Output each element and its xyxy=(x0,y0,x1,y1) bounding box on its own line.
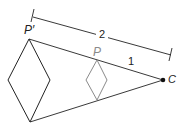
image-rhombus xyxy=(8,39,50,122)
label-p-prime: P′ xyxy=(24,23,34,37)
center-point-icon xyxy=(161,78,166,83)
label-scale-2: 2 xyxy=(99,28,105,40)
ray-lower xyxy=(30,80,163,122)
dilation-diagram: P′ P C 2 1 xyxy=(0,0,181,130)
label-scale-1: 1 xyxy=(128,55,134,67)
diagram-svg xyxy=(0,0,181,130)
label-c: C xyxy=(168,73,176,85)
preimage-rhombus xyxy=(86,60,107,100)
label-p: P xyxy=(93,45,101,59)
dimension-tick-left xyxy=(31,9,34,22)
